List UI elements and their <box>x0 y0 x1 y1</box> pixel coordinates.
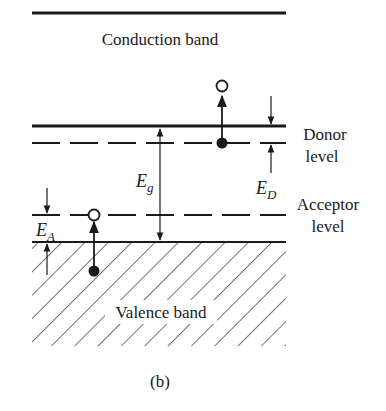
donor-empty-state-circle <box>217 81 228 92</box>
donor-label-line1: Donor <box>303 125 347 144</box>
energy-gap-label: Eg <box>135 171 154 195</box>
conduction-band-label: Conduction band <box>102 30 219 49</box>
valence-band-hatching <box>0 242 386 346</box>
donor-energy-label: ED <box>255 178 277 202</box>
donor-label-line2: level <box>305 147 338 166</box>
acceptor-label-line2: level <box>311 217 344 236</box>
acceptor-electron-dot <box>89 266 100 277</box>
donor-electron-dot <box>217 138 228 149</box>
figure-caption: (b) <box>150 372 170 391</box>
acceptor-energy-label: EA <box>35 220 55 244</box>
valence-band-label: Valence band <box>115 303 207 322</box>
band-diagram: Conduction band Valence band Donor level… <box>0 0 386 411</box>
acceptor-label-line1: Acceptor <box>297 195 360 214</box>
acceptor-hole-circle <box>89 210 100 221</box>
